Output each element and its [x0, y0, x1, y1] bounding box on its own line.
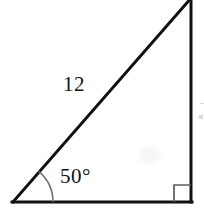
hypotenuse-length-label: 12	[63, 74, 85, 95]
scan-artifact	[139, 146, 161, 164]
angle-arc-icon	[39, 171, 53, 202]
triangle-figure: 12 50°	[0, 0, 204, 215]
base-angle-label: 50°	[60, 166, 91, 187]
triangle-drawing-canvas	[0, 0, 204, 215]
right-angle-square-icon	[174, 185, 191, 202]
clipped-edge-mark	[199, 101, 204, 123]
